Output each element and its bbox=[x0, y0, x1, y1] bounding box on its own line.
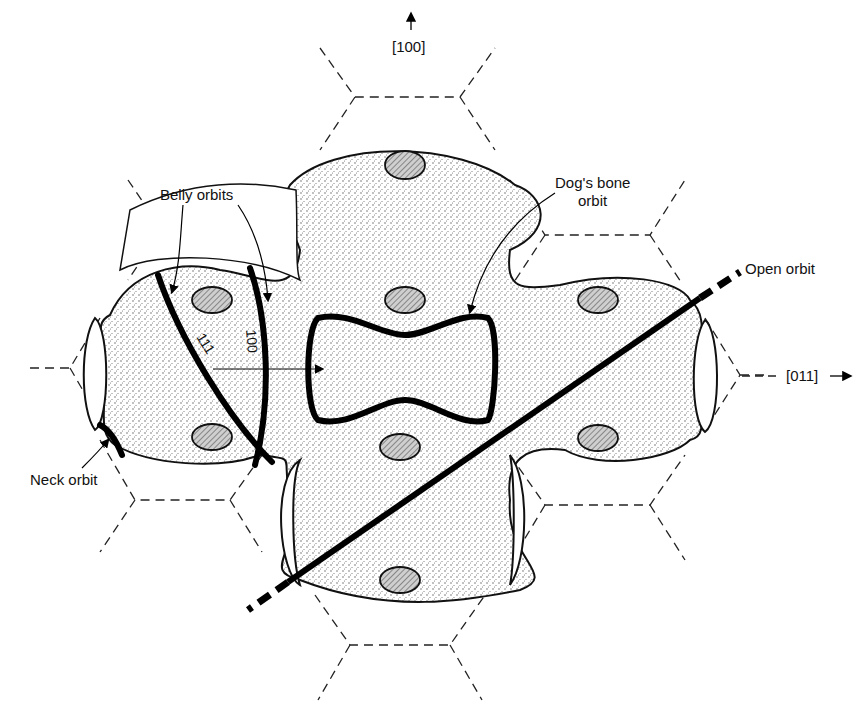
label-belly-orbits: Belly orbits bbox=[160, 186, 233, 203]
fermi-surface-diagram: [100] [011] Belly orbits Dog's bone orbi… bbox=[0, 0, 867, 709]
open-orbit-dashed-top bbox=[700, 272, 740, 298]
label-orbit-100: 100 bbox=[243, 329, 261, 354]
label-open-orbit: Open orbit bbox=[745, 260, 816, 277]
label-dogs-bone-1: Dog's bone bbox=[555, 174, 630, 191]
axis-011-label: [011] bbox=[786, 367, 818, 384]
axis-100-label: [100] bbox=[392, 38, 425, 55]
label-neck-orbit: Neck orbit bbox=[30, 471, 98, 488]
neck-leader bbox=[82, 440, 108, 468]
open-orbit-dashed-bottom bbox=[248, 582, 288, 610]
fermi-sphere-regions bbox=[84, 151, 717, 602]
label-dogs-bone-2: orbit bbox=[578, 192, 608, 209]
